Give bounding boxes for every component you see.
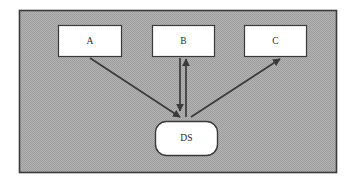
node-ds[interactable]: DS xyxy=(156,122,218,156)
node-a[interactable]: A xyxy=(59,26,122,57)
node-b[interactable]: B xyxy=(153,26,215,57)
diagram-svg: A B C DS xyxy=(0,0,350,188)
node-ds-label: DS xyxy=(180,133,193,143)
node-a-label: A xyxy=(86,36,93,46)
node-b-label: B xyxy=(180,36,187,46)
node-c-label: C xyxy=(272,36,279,46)
node-c[interactable]: C xyxy=(245,26,307,57)
diagram-canvas: A B C DS xyxy=(0,0,350,188)
